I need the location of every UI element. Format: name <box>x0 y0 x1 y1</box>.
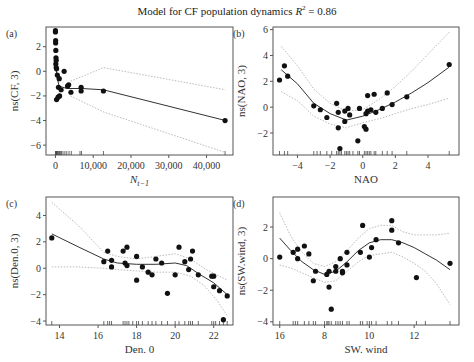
data-point <box>367 254 372 259</box>
data-point <box>105 249 110 254</box>
data-point <box>344 250 349 255</box>
y-tick-label: 6 <box>263 24 268 35</box>
x-tick-label: 10 <box>364 330 374 341</box>
data-point <box>153 256 158 261</box>
x-axis-label: Den. 0 <box>125 343 155 355</box>
data-point <box>68 90 73 95</box>
data-point <box>53 48 58 53</box>
y-tick-label: 0 <box>36 263 41 274</box>
ci-lower-line <box>280 252 450 304</box>
data-point <box>124 245 129 250</box>
y-axis-label: ns(Den.0, 3) <box>8 233 21 288</box>
data-point <box>54 66 59 71</box>
data-point <box>188 256 193 261</box>
data-point <box>101 259 106 264</box>
data-point <box>211 284 216 289</box>
ci-lower-line <box>281 92 449 128</box>
data-point <box>357 106 362 111</box>
data-point <box>363 111 368 116</box>
data-point <box>62 69 67 74</box>
y-tick-label: −2 <box>257 285 268 296</box>
y-tick-label: −6 <box>30 140 41 151</box>
ci-upper-line <box>71 68 226 90</box>
data-point <box>363 127 368 132</box>
y-tick-label: −4 <box>30 115 41 126</box>
panel-d: (d)20−2−41681012SW. windns(SW.wind, 3) <box>233 197 459 355</box>
y-tick-label: 2 <box>36 236 41 247</box>
x-tick-label: 22 <box>209 330 219 341</box>
data-point <box>217 288 222 293</box>
data-point <box>159 260 164 265</box>
panel-label: (d) <box>233 198 245 210</box>
data-point <box>176 245 181 250</box>
y-tick-label: 0 <box>263 253 268 264</box>
y-tick-label: 2 <box>263 222 268 233</box>
data-point <box>372 92 377 97</box>
data-point <box>124 263 129 268</box>
y-tick-label: −4 <box>257 316 268 327</box>
data-point <box>182 259 187 264</box>
x-tick-label: 30,000 <box>155 160 183 171</box>
data-point <box>134 278 139 283</box>
x-tick-label: 2 <box>393 160 398 171</box>
data-point <box>109 264 114 269</box>
data-point <box>186 267 191 272</box>
data-point <box>385 90 390 95</box>
x-tick-label: 8 <box>322 330 327 341</box>
y-axis-label: ns(SW.wind, 3) <box>235 226 248 295</box>
data-point <box>368 107 373 112</box>
panel-label: (a) <box>6 28 17 40</box>
data-point <box>79 88 84 93</box>
data-point <box>57 76 62 81</box>
data-point <box>306 251 311 256</box>
data-point <box>447 261 452 266</box>
x-tick-label: 40,000 <box>193 160 221 171</box>
y-tick-label: 4 <box>263 50 268 61</box>
data-point <box>342 119 347 124</box>
x-tick-label: 18 <box>132 330 142 341</box>
data-point <box>134 254 139 259</box>
data-point <box>196 272 201 277</box>
x-tick-label: 14 <box>54 330 64 341</box>
data-point <box>311 103 316 108</box>
data-point <box>49 235 54 240</box>
fit-line <box>52 234 227 295</box>
x-axis-label: Nt−1 <box>129 173 149 188</box>
figure-canvas: (a)20−2−4−6010,00020,00030,00040,000Nt−1… <box>0 0 474 362</box>
data-point <box>190 249 195 254</box>
y-tick-label: −4 <box>30 316 41 327</box>
data-point <box>211 274 216 279</box>
data-point <box>221 317 226 322</box>
data-point <box>140 264 145 269</box>
data-point <box>285 74 290 79</box>
data-point <box>404 94 409 99</box>
data-point <box>277 77 282 82</box>
y-tick-label: −2 <box>30 90 41 101</box>
data-point <box>225 293 230 298</box>
data-point <box>291 250 296 255</box>
data-point <box>326 284 331 289</box>
x-tick-label: 10,000 <box>79 160 107 171</box>
y-tick-label: 4 <box>36 210 41 221</box>
data-point <box>57 93 62 98</box>
y-tick-label: −2 <box>30 289 41 300</box>
data-point <box>295 256 300 261</box>
data-point <box>369 245 374 250</box>
data-point <box>333 269 338 274</box>
y-tick-label: 0 <box>263 102 268 113</box>
data-point <box>324 115 329 120</box>
data-point <box>149 272 154 277</box>
data-point <box>109 258 114 263</box>
data-point <box>389 218 394 223</box>
data-point <box>365 93 370 98</box>
data-point <box>338 256 343 261</box>
panel-b: (b)6420−2−4−2024NAOns(NAO, 3) <box>233 24 459 185</box>
panel-a: (a)20−2−4−6010,00020,00030,00040,000Nt−1… <box>6 27 233 188</box>
plot-frame <box>46 27 233 155</box>
data-point <box>333 264 338 269</box>
data-point <box>373 110 378 115</box>
x-tick-label: −2 <box>325 160 336 171</box>
data-point <box>358 250 363 255</box>
data-point <box>336 125 341 130</box>
data-point <box>337 146 342 151</box>
